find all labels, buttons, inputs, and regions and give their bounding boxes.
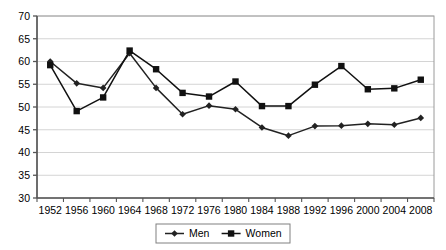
x-tick-label: 1956 (65, 204, 89, 216)
data-point-marker (285, 103, 291, 109)
x-tick-label: 1992 (303, 204, 327, 216)
data-point-marker (312, 82, 318, 88)
x-tick-label: 1972 (171, 204, 195, 216)
y-tick-label: 65 (18, 33, 30, 45)
data-point-marker (206, 93, 212, 99)
y-tick-label: 60 (18, 55, 30, 67)
data-point-marker (228, 230, 234, 236)
data-point-marker (391, 85, 397, 91)
x-tick-label: 1996 (330, 204, 354, 216)
y-tick-label: 30 (18, 192, 30, 204)
x-tick-label: 2004 (383, 204, 407, 216)
data-point-marker (100, 94, 106, 100)
y-tick-label: 70 (18, 10, 30, 22)
x-tick-label: 1952 (39, 204, 63, 216)
y-tick-label: 55 (18, 78, 30, 90)
data-point-marker (365, 86, 371, 92)
x-tick-label: 1988 (277, 204, 301, 216)
y-tick-label: 40 (18, 146, 30, 158)
y-tick-label: 45 (18, 124, 30, 136)
y-axis: 303540455055606570 (18, 10, 37, 204)
x-tick-label: 1960 (91, 204, 115, 216)
data-point-marker (179, 90, 185, 96)
data-point-marker (47, 62, 53, 68)
y-tick-label: 50 (18, 101, 30, 113)
x-tick-label: 1984 (250, 204, 274, 216)
data-point-marker (126, 47, 132, 53)
x-tick-label: 1968 (144, 204, 168, 216)
line-chart: 303540455055606570 195219561960196419681… (0, 0, 446, 250)
data-point-marker (153, 66, 159, 72)
legend: MenWomen (156, 224, 290, 243)
data-point-marker (418, 77, 424, 83)
x-tick-label: 1976 (197, 204, 221, 216)
data-point-marker (232, 78, 238, 84)
x-tick-label: 2008 (409, 204, 433, 216)
data-point-marker (74, 108, 80, 114)
legend-label: Women (246, 227, 282, 239)
chart-canvas: 303540455055606570 195219561960196419681… (0, 0, 446, 250)
x-tick-label: 1964 (118, 204, 142, 216)
y-tick-label: 35 (18, 169, 30, 181)
data-point-marker (338, 63, 344, 69)
x-tick-label: 1980 (224, 204, 248, 216)
legend-label: Men (189, 227, 210, 239)
data-point-marker (259, 103, 265, 109)
x-tick-label: 2000 (356, 204, 380, 216)
